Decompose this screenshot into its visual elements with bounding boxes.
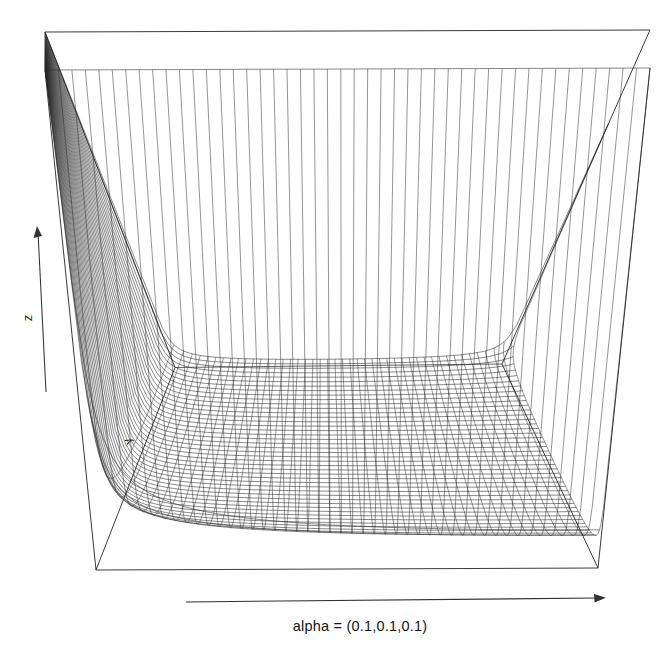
z-axis-label: z [20,315,35,322]
plot-root: z y alpha = (0.1,0.1,0.1) [0,0,668,658]
x-axis-label: alpha = (0.1,0.1,0.1) [293,618,427,634]
surface-plot-figure: z y alpha = (0.1,0.1,0.1) [0,0,668,658]
